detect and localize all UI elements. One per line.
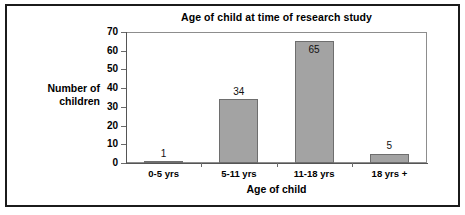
bar-value-label-2: 65 — [295, 44, 334, 55]
bar-value-label-3: 5 — [370, 140, 409, 151]
bar-3[interactable] — [370, 154, 409, 163]
bar-value-label-0: 1 — [144, 148, 183, 159]
y-tick-label: 70 — [94, 27, 118, 37]
x-tick — [352, 163, 353, 167]
chart-title: Age of child at time of research study — [126, 11, 427, 23]
y-tick — [121, 69, 126, 70]
y-tick — [121, 144, 126, 145]
y-tick-label: 30 — [94, 102, 118, 112]
bar-chart: Age of child at time of research study N… — [0, 0, 465, 215]
x-tick — [277, 163, 278, 167]
y-axis-title: Number of children — [22, 82, 100, 108]
x-tick-label-2: 11-18 yrs — [277, 168, 352, 179]
bar-value-label-1: 34 — [219, 86, 258, 97]
y-axis-line — [126, 32, 127, 164]
y-tick — [121, 32, 126, 33]
y-tick-label: 60 — [94, 46, 118, 56]
y-tick — [121, 107, 126, 108]
y-tick — [121, 126, 126, 127]
y-tick — [121, 51, 126, 52]
y-tick-label: 40 — [94, 83, 118, 93]
bar-0[interactable] — [144, 161, 183, 163]
bar-1[interactable] — [219, 99, 258, 163]
y-tick-label: 10 — [94, 139, 118, 149]
y-tick-label: 20 — [94, 121, 118, 131]
y-tick-label: 50 — [94, 64, 118, 74]
y-tick-label: 0 — [94, 158, 118, 168]
y-tick — [121, 163, 126, 164]
x-tick — [201, 163, 202, 167]
x-tick-label-0: 0-5 yrs — [126, 168, 201, 179]
bar-2[interactable] — [295, 41, 334, 163]
x-axis-title: Age of child — [126, 183, 427, 195]
x-tick-label-3: 18 yrs + — [352, 168, 427, 179]
x-tick-label-1: 5-11 yrs — [201, 168, 276, 179]
y-tick — [121, 88, 126, 89]
figure-canvas: Age of child at time of research study N… — [0, 0, 465, 215]
